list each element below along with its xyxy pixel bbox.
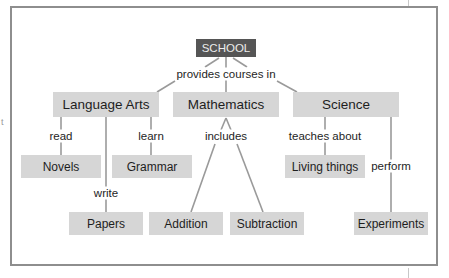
- node-subtraction: Subtraction: [230, 212, 304, 235]
- node-papers: Papers: [69, 212, 143, 235]
- node-label: Addition: [164, 217, 207, 231]
- link-perform: perform: [370, 160, 412, 173]
- node-label: Science: [322, 97, 370, 112]
- node-label: Language Arts: [62, 97, 149, 112]
- node-grammar: Grammar: [112, 155, 192, 178]
- node-experiments: Experiments: [354, 212, 428, 235]
- node-label: Novels: [43, 160, 80, 174]
- link-provides-courses-in: provides courses in: [175, 68, 276, 81]
- node-label: Papers: [87, 217, 125, 231]
- node-living-things: Living things: [285, 155, 365, 178]
- node-addition: Addition: [149, 212, 223, 235]
- node-label: Experiments: [358, 217, 425, 231]
- node-label: Mathematics: [188, 97, 265, 112]
- node-label: SCHOOL: [202, 42, 251, 54]
- node-label: Subtraction: [237, 217, 298, 231]
- node-mathematics: Mathematics: [173, 92, 279, 117]
- link-write: write: [93, 187, 119, 200]
- link-includes: includes: [204, 130, 248, 143]
- link-learn: learn: [137, 130, 165, 143]
- node-novels: Novels: [21, 155, 101, 178]
- node-school: SCHOOL: [196, 39, 256, 57]
- node-science: Science: [293, 92, 399, 117]
- link-teaches-about: teaches about: [288, 130, 362, 143]
- node-label: Living things: [292, 160, 359, 174]
- node-label: Grammar: [127, 160, 178, 174]
- link-read: read: [48, 130, 73, 143]
- node-language-arts: Language Arts: [53, 92, 159, 117]
